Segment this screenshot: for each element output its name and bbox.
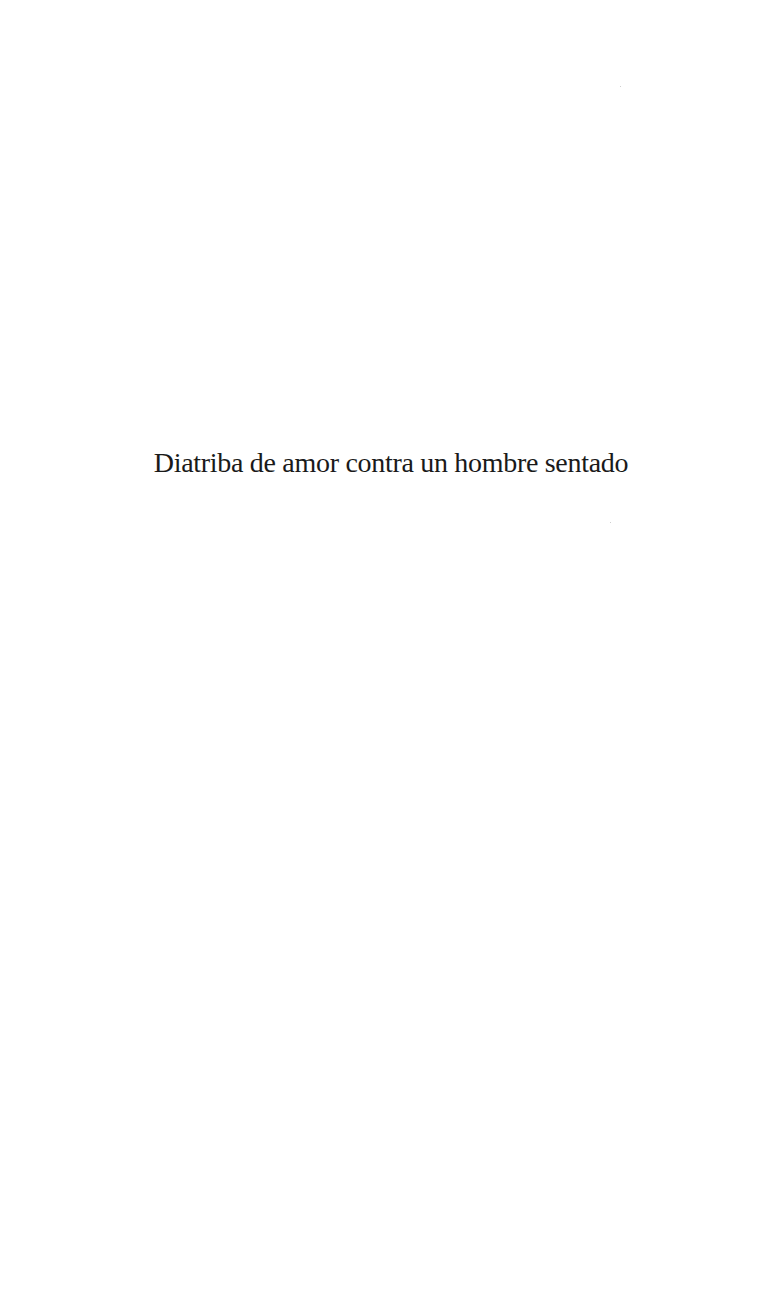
scan-speck bbox=[610, 522, 611, 523]
book-half-title-page: Diatriba de amor contra un hombre sentad… bbox=[0, 0, 776, 1296]
scan-speck bbox=[620, 86, 621, 87]
book-title: Diatriba de amor contra un hombre sentad… bbox=[0, 445, 776, 481]
